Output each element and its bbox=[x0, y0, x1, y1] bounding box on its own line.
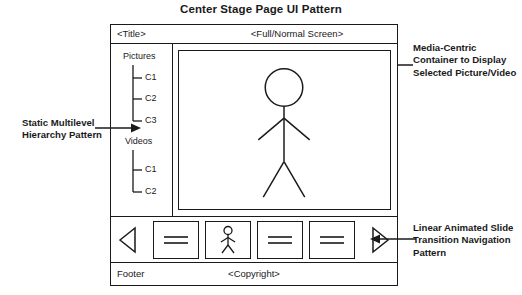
sidebar-item-videos-c1[interactable]: C1 bbox=[145, 164, 157, 174]
slide-navigation-bar bbox=[111, 216, 397, 263]
sidebar-item-videos-c2[interactable]: C2 bbox=[145, 186, 157, 196]
annotation-left-connector bbox=[95, 120, 143, 136]
sidebar-item-pictures-c1[interactable]: C1 bbox=[145, 72, 157, 82]
sidebar-item-pictures-c2[interactable]: C2 bbox=[145, 93, 157, 103]
sidebar-group-videos[interactable]: Videos bbox=[125, 136, 152, 146]
diagram-title: Center Stage Page UI Pattern bbox=[0, 3, 522, 15]
media-stage-container[interactable] bbox=[178, 50, 391, 210]
content-row: Pictures C1 C2 C3 Videos C1 C2 bbox=[111, 44, 397, 216]
footer-bar: Footer <Copyright> bbox=[111, 263, 397, 285]
stick-figure-icon bbox=[179, 51, 390, 209]
thumbnail-item[interactable] bbox=[309, 221, 355, 259]
annotation-slide-navigation: Linear Animated Slide Transition Navigat… bbox=[413, 222, 518, 259]
stick-figure-person-icon bbox=[217, 225, 239, 255]
thumbnail-strip bbox=[153, 221, 355, 259]
thumbnail-item[interactable] bbox=[257, 221, 303, 259]
thumbnail-item[interactable] bbox=[153, 221, 199, 259]
thumbnail-item[interactable] bbox=[205, 221, 251, 259]
equals-lines-icon bbox=[163, 233, 189, 247]
triangle-left-icon[interactable] bbox=[118, 225, 137, 255]
equals-lines-icon bbox=[319, 233, 345, 247]
annotation-right-top-connector bbox=[397, 58, 415, 72]
title-bar: <Title> <Full/Normal Screen> bbox=[111, 25, 397, 44]
device-frame: <Title> <Full/Normal Screen> Pictures C1… bbox=[110, 24, 398, 286]
copyright-label: <Copyright> bbox=[111, 268, 397, 279]
sidebar-item-pictures-c3[interactable]: C3 bbox=[145, 115, 157, 125]
annotation-media-container: Media-Centric Container to Display Selec… bbox=[413, 42, 518, 79]
annotation-right-bottom-connector bbox=[370, 231, 416, 247]
equals-lines-icon bbox=[267, 233, 293, 247]
fullscreen-toggle-label[interactable]: <Full/Normal Screen> bbox=[111, 28, 397, 39]
